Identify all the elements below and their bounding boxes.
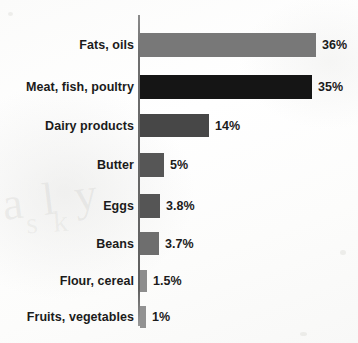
bar-and-value: 14%	[140, 114, 240, 137]
bar-and-value: 1.5%	[140, 270, 182, 292]
bar-value-label: 14%	[215, 119, 240, 133]
bar-and-value: 3.8%	[140, 194, 195, 218]
category-label: Fruits, vegetables	[0, 310, 134, 324]
bar	[140, 232, 159, 255]
bar-row: Meat, fish, poultry35%	[0, 75, 358, 99]
bar	[140, 306, 146, 328]
category-label: Meat, fish, poultry	[0, 80, 134, 94]
category-label: Dairy products	[0, 119, 134, 133]
bar-row: Beans3.7%	[0, 232, 358, 255]
bar-value-label: 1.5%	[153, 274, 182, 288]
bar-and-value: 5%	[140, 153, 188, 177]
bar-value-label: 1%	[152, 310, 170, 324]
bar-row: Dairy products14%	[0, 114, 358, 137]
category-label: Fats, oils	[0, 38, 134, 52]
bar-row: Fruits, vegetables1%	[0, 306, 358, 328]
category-label: Eggs	[0, 199, 134, 213]
category-label: Flour, cereal	[0, 274, 134, 288]
bar-and-value: 35%	[140, 75, 343, 99]
bar	[140, 75, 312, 99]
bar-and-value: 36%	[140, 33, 347, 57]
bar-and-value: 3.7%	[140, 232, 194, 255]
bar-row: Butter5%	[0, 153, 358, 177]
bar-row: Fats, oils36%	[0, 33, 358, 57]
bar	[140, 153, 164, 177]
bar	[140, 270, 147, 292]
category-label: Butter	[0, 158, 134, 172]
bar	[140, 194, 160, 218]
bar-value-label: 36%	[322, 38, 347, 52]
bar-value-label: 5%	[170, 158, 188, 172]
bar-value-label: 3.7%	[165, 237, 194, 251]
bar	[140, 33, 316, 57]
bar-value-label: 35%	[318, 80, 343, 94]
bar-chart: a l y s k Fats, oils36%Meat, fish, poult…	[0, 0, 358, 343]
bar-rows: Fats, oils36%Meat, fish, poultry35%Dairy…	[0, 0, 358, 343]
bar-row: Eggs3.8%	[0, 194, 358, 218]
bar-value-label: 3.8%	[166, 199, 195, 213]
bar-row: Flour, cereal1.5%	[0, 270, 358, 292]
category-label: Beans	[0, 237, 134, 251]
bar	[140, 114, 209, 137]
bar-and-value: 1%	[140, 306, 170, 328]
